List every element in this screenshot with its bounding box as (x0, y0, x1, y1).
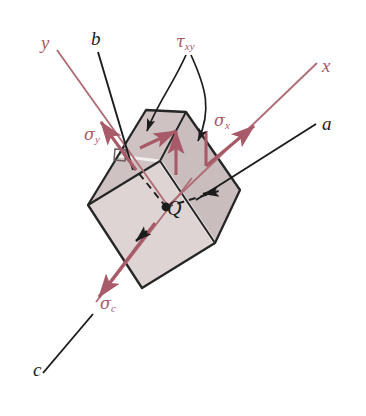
axis-line-b (98, 52, 133, 170)
stress-element-figure (0, 0, 366, 416)
axis-label-x: x (322, 56, 330, 75)
sigma-x-label: σx (214, 113, 230, 131)
sigma-glyph-x: σ (214, 111, 225, 130)
tau-glyph: τ (176, 32, 185, 51)
sigma-glyph-y: σ (84, 125, 95, 144)
sigma-glyph-c: σ (100, 294, 111, 313)
sigma-c-label: σc (100, 296, 116, 314)
axis-label-a: a (322, 114, 332, 133)
point-label-q: Q (167, 198, 181, 218)
axis-label-c: c (33, 360, 41, 379)
sigma-y-label: σy (84, 127, 100, 145)
sigma-c-subscript: c (111, 302, 116, 314)
axis-label-y: y (41, 33, 49, 52)
axis-label-b: b (91, 29, 101, 48)
sigma-x-subscript: x (225, 119, 230, 131)
sigma-y-subscript: y (95, 133, 100, 145)
tau-xy-label: τxy (176, 34, 195, 52)
tau-subscript: xy (185, 40, 195, 52)
sigma-x-arrow-outer (206, 126, 254, 166)
axis-line-c (43, 314, 93, 373)
